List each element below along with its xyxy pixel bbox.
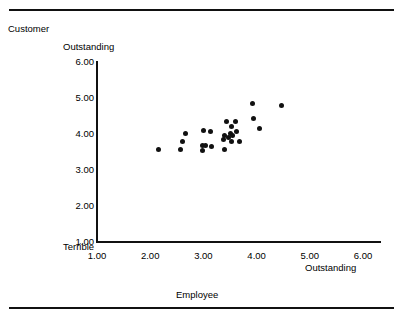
data-point (251, 116, 256, 121)
x-axis-line (96, 241, 381, 243)
data-point (230, 133, 235, 138)
data-point (222, 147, 227, 152)
data-point (208, 129, 213, 134)
y-axis-line (96, 61, 98, 243)
data-point (229, 124, 234, 129)
x-tick-label: 2.00 (130, 250, 170, 261)
data-point (237, 139, 242, 144)
y-tick-label: 1.00 (60, 236, 94, 247)
y-tick-label: 6.00 (60, 56, 94, 67)
data-point (201, 128, 206, 133)
data-point (209, 144, 214, 149)
data-point (257, 126, 262, 131)
scatter-plot-figure: Customer Outstanding Terrible Outstandin… (0, 0, 403, 319)
x-tick-label: 1.00 (77, 250, 117, 261)
y-tick-label: 5.00 (60, 92, 94, 103)
data-point (250, 101, 255, 106)
data-point (156, 147, 161, 152)
data-point (180, 139, 185, 144)
data-point (234, 129, 239, 134)
y-tick-label: 3.00 (60, 164, 94, 175)
x-tick-label: 3.00 (183, 250, 223, 261)
data-point (200, 148, 205, 153)
y-tick-label: 4.00 (60, 128, 94, 139)
plot-area: 6.005.004.003.002.001.00 1.002.003.004.0… (0, 0, 403, 319)
data-point (233, 119, 238, 124)
x-tick-label: 4.00 (237, 250, 277, 261)
data-point (203, 143, 208, 148)
data-point (229, 139, 234, 144)
data-point (224, 119, 229, 124)
data-point (183, 131, 188, 136)
y-tick-label: 2.00 (60, 200, 94, 211)
x-tick-label: 6.00 (343, 250, 383, 261)
data-point (178, 147, 183, 152)
x-tick-label: 5.00 (290, 250, 330, 261)
data-point (279, 103, 284, 108)
